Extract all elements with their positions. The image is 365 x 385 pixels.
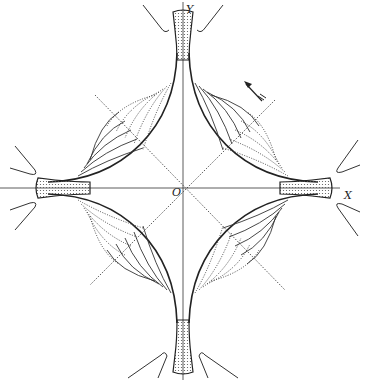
hook-curve: [199, 353, 238, 378]
contour-line: [84, 208, 131, 246]
hook-curve: [10, 203, 36, 231]
contour-line: [235, 208, 282, 246]
hook-curve: [128, 353, 167, 378]
contour-line: [125, 238, 163, 287]
hook-curve: [10, 146, 36, 175]
astroid-diagram: Y X O: [0, 0, 365, 385]
y-axis-label: Y: [186, 3, 195, 16]
direction-arrow-icon: [244, 81, 266, 101]
contour-line: [207, 244, 250, 284]
hook-curve: [337, 204, 360, 237]
lobe: [36, 178, 90, 198]
lobes: [36, 10, 332, 374]
contour-line: [78, 200, 143, 228]
hook-curve: [337, 140, 360, 173]
contour-line: [143, 83, 171, 150]
contour-line: [203, 238, 241, 287]
contour-line: [87, 212, 125, 255]
contour-line: [116, 92, 159, 132]
hook-curve: [197, 5, 223, 32]
contour-line: [125, 89, 163, 138]
contour-line: [235, 130, 282, 168]
contour-line: [107, 95, 155, 126]
lobe: [173, 320, 193, 374]
contour-line: [211, 250, 259, 281]
contour-line: [241, 121, 279, 164]
contour-line: [195, 226, 223, 293]
lobe: [173, 10, 193, 60]
contour-line: [223, 148, 288, 176]
x-axis-label: X: [343, 189, 353, 202]
contour-line: [203, 89, 241, 138]
hook-curve: [143, 5, 169, 32]
lobe: [280, 178, 332, 198]
contour-line: [84, 130, 131, 168]
diagonal-line-1: [95, 95, 285, 290]
origin-label: O: [172, 186, 181, 199]
